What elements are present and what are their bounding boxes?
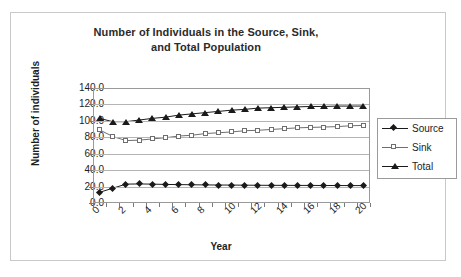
data-point-total: [188, 111, 196, 117]
data-point-sink: [335, 124, 340, 129]
data-point-source: [176, 182, 181, 187]
data-point-total: [241, 106, 249, 112]
data-point-source: [110, 186, 115, 191]
data-point-sink: [137, 138, 142, 143]
data-point-sink: [348, 123, 353, 128]
data-point-total: [148, 115, 156, 121]
x-tick-mark: [185, 203, 186, 207]
data-point-source: [321, 183, 326, 188]
data-point-total: [201, 110, 209, 116]
data-point-source: [295, 183, 300, 188]
data-point-source: [150, 182, 155, 187]
data-point-total: [122, 119, 130, 125]
data-point-source: [282, 183, 287, 188]
data-point-sink: [321, 125, 326, 130]
x-tick-mark: [238, 203, 239, 207]
data-point-sink: [255, 128, 260, 133]
data-point-total: [109, 119, 117, 125]
data-point-sink: [216, 130, 221, 135]
data-point-sink: [97, 127, 102, 132]
data-point-source: [216, 183, 221, 188]
data-point-total: [293, 104, 301, 110]
chart-frame: Number of Individuals in the Source, Sin…: [10, 12, 446, 261]
data-point-source: [335, 183, 340, 188]
data-point-total: [96, 115, 104, 121]
x-tick-mark: [159, 203, 160, 207]
chart-legend: SourceSinkTotal: [377, 118, 457, 179]
data-point-sink: [229, 129, 234, 134]
x-tick-mark: [317, 203, 318, 207]
x-tick-mark: [133, 203, 134, 207]
legend-label: Total: [412, 162, 433, 172]
data-point-source: [361, 183, 366, 188]
x-tick-mark: [212, 203, 213, 207]
x-axis-label: Year: [131, 241, 311, 252]
data-point-sink: [269, 127, 274, 132]
data-point-source: [348, 183, 353, 188]
data-point-source: [229, 183, 234, 188]
legend-item-total[interactable]: Total: [378, 157, 456, 176]
legend-marker-sink-icon: [382, 142, 408, 154]
data-point-sink: [295, 125, 300, 130]
plot-area: [93, 88, 370, 203]
legend-marker-source-icon: [382, 123, 408, 135]
data-point-source: [137, 181, 142, 186]
data-point-total: [175, 112, 183, 118]
data-point-total: [214, 108, 222, 114]
x-tick-mark: [264, 203, 265, 207]
x-tick-mark: [370, 203, 371, 207]
legend-label: Source: [412, 124, 444, 134]
data-point-total: [254, 105, 262, 111]
data-point-total: [280, 104, 288, 110]
data-point-total: [162, 114, 170, 120]
legend-item-sink[interactable]: Sink: [378, 138, 456, 157]
x-tick-mark: [291, 203, 292, 207]
data-point-sink: [308, 125, 313, 130]
data-point-sink: [189, 133, 194, 138]
data-point-source: [242, 183, 247, 188]
data-point-sink: [123, 138, 128, 143]
legend-marker-total-icon: [382, 161, 408, 173]
data-point-source: [189, 182, 194, 187]
data-point-total: [228, 107, 236, 113]
data-point-total: [346, 103, 354, 109]
data-point-sink: [361, 123, 366, 128]
legend-item-source[interactable]: Source: [378, 119, 456, 138]
x-tick-mark: [106, 203, 107, 207]
data-point-source: [203, 182, 208, 187]
data-point-sink: [242, 128, 247, 133]
data-point-source: [308, 183, 313, 188]
data-point-sink: [176, 134, 181, 139]
legend-label: Sink: [412, 143, 431, 153]
data-point-total: [359, 103, 367, 109]
data-point-sink: [163, 135, 168, 140]
x-tick-mark: [344, 203, 345, 207]
data-point-sink: [150, 136, 155, 141]
data-point-sink: [203, 131, 208, 136]
data-point-total: [267, 105, 275, 111]
data-point-source: [97, 190, 102, 195]
data-point-total: [320, 103, 328, 109]
data-point-sink: [282, 126, 287, 131]
data-point-source: [255, 183, 260, 188]
data-point-source: [163, 182, 168, 187]
data-point-total: [135, 117, 143, 123]
data-point-source: [269, 183, 274, 188]
data-point-total: [333, 103, 341, 109]
data-point-sink: [110, 134, 115, 139]
data-point-total: [307, 103, 315, 109]
data-point-source: [123, 182, 128, 187]
